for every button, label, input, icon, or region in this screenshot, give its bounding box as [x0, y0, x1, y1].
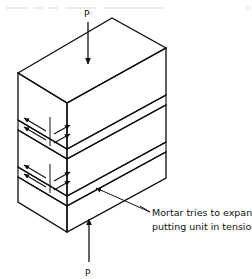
mortar-annotation: Mortar tries to expand, putting unit in …: [96, 188, 252, 232]
upper-joint-expansion-arrows: [24, 117, 70, 146]
mortar-annotation-line2: putting unit in tension: [152, 221, 252, 232]
bottom-load-indicator: P: [85, 219, 91, 278]
leader-line-tail: [140, 206, 150, 212]
prism-body: [18, 18, 166, 232]
top-masonry-unit: [18, 18, 166, 149]
mortar-annotation-line1: Mortar tries to expand,: [152, 207, 252, 218]
lower-joint-expansion-arrows: [24, 164, 70, 193]
masonry-prism-diagram: P P Mortar tries to expand, putting unit…: [0, 0, 252, 279]
bottom-unit-right-face: [67, 152, 166, 232]
top-load-indicator: P: [84, 9, 90, 64]
top-load-label: P: [84, 9, 90, 19]
top-unit-right-face: [67, 48, 166, 149]
bottom-load-label: P: [85, 268, 91, 278]
bottom-masonry-unit: [18, 152, 166, 232]
